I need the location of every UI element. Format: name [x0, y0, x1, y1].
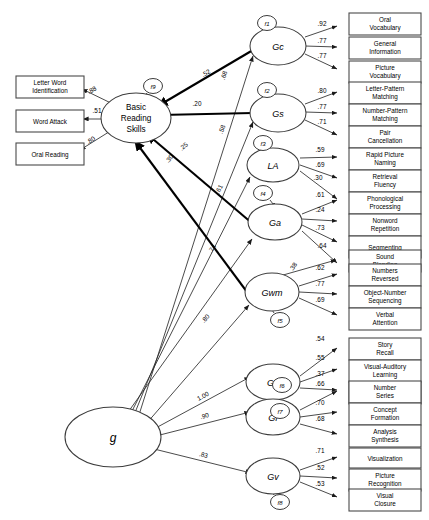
indicator-label: Matching	[372, 93, 398, 101]
indicator-picture-recognition[interactable]: Picture Recognition	[349, 469, 421, 491]
factor-node-Gv[interactable]: Gv	[246, 458, 300, 494]
indicator-general-information[interactable]: General Information	[349, 37, 421, 59]
sem-diagram-canvas: Oral Vocabulary General Information Pict…	[0, 0, 429, 520]
residual-label: f3	[260, 141, 266, 147]
coefficient-label: .62	[316, 264, 325, 271]
indicator-label: Reversed	[372, 275, 399, 282]
residual-f8[interactable]: f8	[271, 495, 290, 510]
residual-f3[interactable]: f3	[254, 136, 273, 151]
factor-label: g	[110, 431, 117, 445]
factor-label: Reading	[121, 114, 152, 123]
indicator-visual-auditory-learning[interactable]: Visual-Auditory Learning	[349, 360, 421, 382]
indicator-label: Picture	[375, 472, 395, 479]
residual-f5[interactable]: f5	[271, 313, 290, 328]
indicator-label: Picture	[375, 64, 395, 71]
indicator-letter-pattern-matching[interactable]: Letter-Pattern Matching	[349, 82, 421, 104]
indicator-nonword-repetition[interactable]: Nonword Repetition	[349, 214, 421, 236]
indicator-picture-vocabulary[interactable]: Picture Vocabulary	[349, 61, 421, 83]
indicator-label: Letter-Pattern	[366, 85, 405, 92]
coefficient-label: .69	[316, 161, 325, 168]
coefficient-label: .24	[316, 206, 325, 213]
factor-node-LA[interactable]: LA	[247, 148, 299, 182]
coefficient-label: .80	[85, 134, 97, 145]
coefficient-label: .71	[316, 447, 325, 454]
indicator-label: Synthesis	[371, 436, 398, 444]
indicator-label: Concept	[373, 406, 397, 414]
residual-f7[interactable]: f7	[271, 404, 290, 419]
indicator-analysis-synthesis[interactable]: Analysis Synthesis	[349, 425, 421, 447]
coefficient-label: .38	[288, 261, 299, 273]
residual-label: f5	[277, 318, 283, 324]
factor-label: Gs	[272, 109, 284, 119]
indicator-oral-vocabulary[interactable]: Oral Vocabulary	[349, 13, 421, 35]
indicator-label: Closure	[374, 500, 396, 507]
indicator-label: Vocabulary	[369, 24, 401, 32]
indicator-label: Visual	[376, 492, 393, 499]
indicator-label: Story	[378, 341, 394, 349]
indicator-label: Series	[376, 392, 394, 399]
indicator-label: Number-Pattern	[363, 107, 408, 114]
factor-node-Gs[interactable]: Gs	[250, 94, 306, 132]
coefficient-label: .51	[93, 107, 102, 114]
coefficient-label: .70	[316, 399, 325, 406]
residual-f9[interactable]: f9	[144, 79, 163, 94]
indicator-label: Visualization	[367, 455, 403, 462]
coefficient-label: .30	[164, 152, 175, 164]
residual-f1[interactable]: f1	[258, 16, 277, 31]
coefficient-label: .64	[318, 242, 327, 249]
indicator-word-attack[interactable]: Word Attack	[16, 110, 84, 132]
factor-label: Gc	[272, 42, 284, 52]
indicator-label: Sequencing	[368, 297, 402, 305]
factor-label: LA	[267, 161, 278, 171]
indicator-pair-cancellation[interactable]: Pair Cancellation	[349, 126, 421, 148]
coefficient-label: .80	[200, 312, 211, 324]
indicator-label: Formation	[371, 414, 400, 421]
indicator-label: Recall	[376, 349, 394, 356]
coefficient-label: .73	[316, 224, 325, 231]
residual-label: f8	[277, 500, 283, 506]
factor-node-g[interactable]: g	[65, 407, 161, 467]
indicator-label: Retrieval	[373, 173, 398, 180]
indicator-label: Cancellation	[368, 137, 403, 144]
factor-node-BRS[interactable]: Basic Reading Skills	[101, 93, 171, 143]
factor-node-Gf[interactable]: Gf	[246, 399, 300, 435]
indicator-phonological-processing[interactable]: Phonological Processing	[349, 192, 421, 214]
coefficient-label: .20	[193, 100, 202, 107]
indicator-story-recall[interactable]: Story Recall	[349, 338, 421, 360]
indicator-concept-formation[interactable]: Concept Formation	[349, 403, 421, 425]
coefficient-label: .55	[316, 354, 325, 361]
coefficient-label: .77	[318, 37, 327, 44]
indicator-letter-word-identification[interactable]: Letter Word Identification	[16, 76, 84, 98]
factor-node-Gwm[interactable]: Gwm	[245, 273, 299, 311]
indicator-oral-reading[interactable]: Oral Reading	[16, 143, 84, 165]
coefficient-label: .77	[318, 52, 327, 59]
indicator-label: Recognition	[368, 480, 402, 488]
indicator-visual-closure[interactable]: Visual Closure	[349, 489, 421, 511]
coefficient-label: .30	[314, 174, 323, 181]
coefficient-label: .53	[316, 480, 325, 487]
indicator-object-number-sequencing[interactable]: Object-Number Sequencing	[349, 286, 421, 308]
indicator-label: Object-Number	[364, 289, 407, 297]
indicator-rapid-picture-naming[interactable]: Rapid Picture Naming	[349, 148, 421, 170]
indicator-retrieval-fluency[interactable]: Retrieval Fluency	[349, 170, 421, 192]
factor-label: Basic	[126, 103, 146, 112]
indicator-visualization[interactable]: Visualization	[349, 448, 421, 468]
indicator-number-pattern-matching[interactable]: Number-Pattern Matching	[349, 104, 421, 126]
residual-label: f6	[279, 383, 285, 389]
residual-f6[interactable]: f6	[273, 378, 292, 393]
factor-node-Ga[interactable]: Ga	[248, 204, 302, 240]
residual-f4[interactable]: f4	[254, 186, 273, 201]
indicator-label: Word Attack	[33, 118, 68, 125]
indicator-numbers-reversed[interactable]: Numbers Reversed	[349, 264, 421, 286]
indicator-number-series[interactable]: Number Series	[349, 381, 421, 403]
coefficient-label: .69	[316, 296, 325, 303]
indicator-verbal-attention[interactable]: Verbal Attention	[349, 308, 421, 330]
coefficient-label: .92	[318, 20, 327, 27]
factor-node-Gc[interactable]: Gc	[250, 27, 306, 65]
coefficient-label: .68	[316, 415, 325, 422]
residual-f2[interactable]: f2	[258, 83, 277, 98]
coefficient-label: .66	[316, 380, 325, 387]
indicator-label: Matching	[372, 115, 398, 123]
coefficient-label: .90	[199, 411, 210, 420]
factor-label: Ga	[269, 218, 281, 228]
